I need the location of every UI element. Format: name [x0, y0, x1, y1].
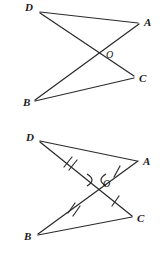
vertex-label-O: O: [103, 178, 110, 189]
segment-DA: [40, 141, 137, 161]
segment-DC: [40, 13, 134, 76]
diagram-bottom: D A O C B: [0, 129, 162, 259]
vertex-label-B: B: [22, 96, 30, 108]
top-edges: [35, 12, 139, 101]
segment-DA: [40, 12, 138, 23]
vertex-label-C: C: [137, 212, 145, 224]
segment-BA: [38, 161, 138, 234]
vertex-label-O: O: [106, 49, 113, 60]
vertex-label-A: A: [143, 16, 151, 28]
segment-DC: [40, 142, 132, 216]
geometry-figure-root: D A O C B: [0, 0, 162, 259]
vertex-label-A: A: [142, 155, 150, 167]
vertex-label-B: B: [23, 230, 31, 242]
segment-BC: [38, 217, 132, 235]
vertex-label-D: D: [25, 131, 34, 143]
bottom-edges: [38, 141, 138, 235]
diagram-top: D A O C B: [0, 0, 162, 130]
bottom-tick-marks: [64, 157, 120, 216]
vertex-label-C: C: [139, 72, 147, 84]
vertex-label-D: D: [24, 1, 33, 13]
